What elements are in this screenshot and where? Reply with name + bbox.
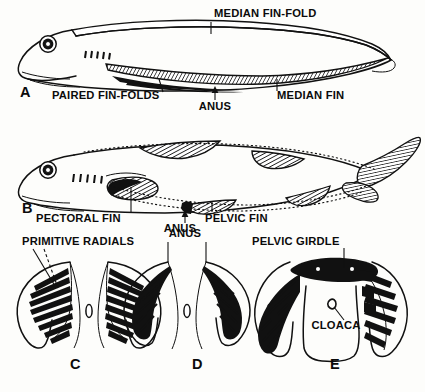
label-median-fin: MEDIAN FIN xyxy=(277,89,344,101)
label-cloaca: CLOACA xyxy=(311,319,360,331)
panel-letter-b: B xyxy=(22,200,33,216)
panel-letter-e: E xyxy=(330,356,340,372)
label-pectoral-fin: PECTORAL FIN xyxy=(36,212,121,224)
label-pelvic-fin: PELVIC FIN xyxy=(205,212,268,224)
eye-pupil-b xyxy=(46,168,51,173)
label-anus-a: ANUS xyxy=(199,100,232,112)
eye-pupil-a xyxy=(46,42,51,47)
panel-letter-a: A xyxy=(20,84,31,100)
figure-root: MEDIAN FIN-FOLD PAIRED FIN-FOLDS ANUS ME… xyxy=(0,0,425,392)
anus-opening-d xyxy=(184,305,190,318)
label-anus-d: ANUS xyxy=(169,227,202,239)
panel-letter-c: C xyxy=(70,356,81,372)
label-median-fin-fold: MEDIAN FIN-FOLD xyxy=(214,7,316,19)
girdle-foramen-right xyxy=(350,267,354,271)
label-primitive-radials: PRIMITIVE RADIALS xyxy=(22,235,135,247)
fin-fold-theory-figure: MEDIAN FIN-FOLD PAIRED FIN-FOLDS ANUS ME… xyxy=(0,0,425,392)
label-pelvic-girdle: PELVIC GIRDLE xyxy=(252,235,340,247)
panel-letter-d: D xyxy=(192,356,203,372)
anus-opening-c xyxy=(86,305,92,318)
label-paired-fin-folds: PAIRED FIN-FOLDS xyxy=(52,89,160,101)
girdle-foramen-left xyxy=(316,267,320,271)
